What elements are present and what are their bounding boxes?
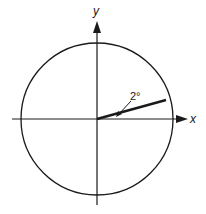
x-axis-arrowhead-icon bbox=[176, 115, 188, 123]
x-axis-label: x bbox=[189, 112, 197, 126]
y-axis-label: y bbox=[92, 4, 100, 18]
angle-label: 2° bbox=[130, 90, 141, 102]
y-axis-arrowhead-icon bbox=[93, 21, 101, 33]
unit-circle-diagram: x y 2° bbox=[0, 0, 206, 214]
radius-vector bbox=[97, 100, 166, 119]
